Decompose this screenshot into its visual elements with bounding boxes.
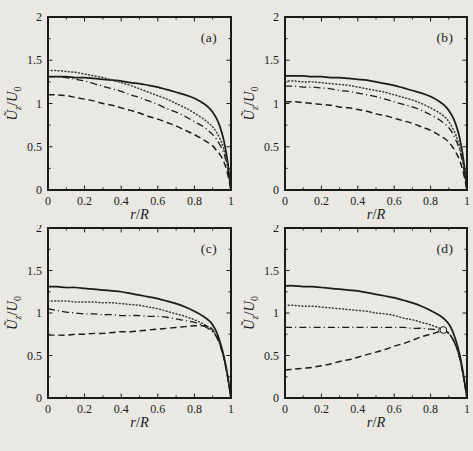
y-tick-label: 0.5 xyxy=(27,140,42,154)
x-tick-label: 1 xyxy=(464,402,470,416)
y-axis-label: Ũz/U0 xyxy=(4,296,23,330)
curve-dotted xyxy=(285,81,467,190)
x-tick-label: 0.6 xyxy=(150,402,165,416)
y-tick-label: 2 xyxy=(273,225,279,235)
y-tick-label: 0 xyxy=(273,391,279,405)
y-tick-label: 0.5 xyxy=(264,140,279,154)
curve-dash-dot xyxy=(285,327,467,398)
y-tick-label: 0.5 xyxy=(27,349,42,363)
y-tick-label: 1.5 xyxy=(264,53,279,67)
y-axis-label: Ũz/U0 xyxy=(241,296,260,330)
curve-dotted xyxy=(48,71,231,190)
panel-label-d: (d) xyxy=(436,241,453,257)
x-tick-label: 1 xyxy=(464,194,470,208)
x-axis-label: r/R xyxy=(130,206,149,222)
y-tick-label: 0 xyxy=(36,183,42,197)
curve-dashed xyxy=(285,331,467,398)
y-tick-label: 2 xyxy=(273,10,279,24)
x-tick-label: 0.4 xyxy=(350,194,365,208)
x-tick-label: 0 xyxy=(282,194,288,208)
curve-dashed xyxy=(285,102,467,190)
y-tick-label: 1 xyxy=(36,306,42,320)
curve-dash-dot xyxy=(48,309,231,398)
curve-dashed xyxy=(48,326,231,398)
figure: 00.20.40.60.8100.511.52r/RŨz/U0 00.20.40… xyxy=(0,0,473,451)
y-tick-label: 1 xyxy=(273,97,279,111)
x-tick-label: 0 xyxy=(282,402,288,416)
x-tick-label: 0.6 xyxy=(387,194,402,208)
x-axis-label: r/R xyxy=(130,414,149,430)
x-tick-label: 0.2 xyxy=(314,402,329,416)
y-tick-label: 1 xyxy=(36,97,42,111)
y-tick-label: 2 xyxy=(36,225,42,235)
curve-solid xyxy=(48,287,231,398)
x-tick-label: 1 xyxy=(228,194,234,208)
y-tick-label: 1.5 xyxy=(27,53,42,67)
curve-solid xyxy=(48,77,231,190)
x-tick-label: 0 xyxy=(45,402,51,416)
y-tick-label: 2 xyxy=(36,10,42,24)
x-tick-label: 0.8 xyxy=(423,194,438,208)
y-tick-label: 0 xyxy=(36,391,42,405)
y-tick-label: 0.5 xyxy=(264,349,279,363)
x-tick-label: 0.6 xyxy=(387,402,402,416)
plot-panel-d: 00.20.40.60.8100.511.52r/RŨz/U0 xyxy=(236,225,473,451)
panel-label-a: (a) xyxy=(201,30,217,46)
x-tick-label: 0.4 xyxy=(350,402,365,416)
y-axis-label: Ũz/U0 xyxy=(4,87,23,121)
x-tick-label: 1 xyxy=(228,402,234,416)
y-tick-label: 1 xyxy=(273,306,279,320)
panel-label-c: (c) xyxy=(201,241,217,257)
x-tick-label: 0 xyxy=(45,194,51,208)
x-tick-label: 0.8 xyxy=(423,402,438,416)
y-tick-label: 0 xyxy=(273,183,279,197)
x-tick-label: 0.6 xyxy=(150,194,165,208)
curve-dash-dot xyxy=(48,77,231,190)
x-tick-label: 0.8 xyxy=(187,194,202,208)
curve-solid xyxy=(285,286,467,398)
x-tick-label: 0.2 xyxy=(77,194,92,208)
x-axis-label: r/R xyxy=(367,414,386,430)
panel-label-b: (b) xyxy=(436,30,453,46)
y-tick-label: 1.5 xyxy=(27,264,42,278)
x-tick-label: 0.8 xyxy=(187,402,202,416)
x-tick-label: 0.4 xyxy=(114,194,129,208)
y-axis-label: Ũz/U0 xyxy=(241,87,260,121)
x-tick-label: 0.2 xyxy=(77,402,92,416)
curve-solid xyxy=(285,76,467,190)
x-axis-label: r/R xyxy=(367,206,386,222)
x-tick-label: 0.4 xyxy=(114,402,129,416)
curve-dashed xyxy=(48,95,231,190)
open-circle-marker xyxy=(440,327,447,334)
plot-panel-c: 00.20.40.60.8100.511.52r/RŨz/U0 xyxy=(0,225,236,451)
y-tick-label: 1.5 xyxy=(264,264,279,278)
x-tick-label: 0.2 xyxy=(314,194,329,208)
